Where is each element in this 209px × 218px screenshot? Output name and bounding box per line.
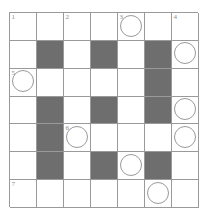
cell-clue-number: 3 (120, 13, 124, 21)
cell-clue-number: 2 (66, 13, 70, 21)
grid-cell[interactable] (91, 180, 118, 208)
grid-cell[interactable] (91, 124, 118, 152)
cell-circle-marker (12, 70, 34, 92)
crossword-puzzle: 1234567 (0, 0, 209, 218)
grid-cell[interactable] (10, 152, 37, 180)
grid-cell-blocked (91, 97, 118, 125)
grid-cell[interactable] (91, 69, 118, 97)
grid-cell[interactable]: 5 (10, 69, 37, 97)
cell-circle-marker (174, 98, 196, 120)
grid-cell[interactable] (118, 124, 145, 152)
grid-cell[interactable] (37, 13, 64, 41)
cell-circle-marker (120, 154, 142, 176)
grid-cell[interactable]: 3 (118, 13, 145, 41)
grid-cell[interactable]: 2 (64, 13, 91, 41)
grid-cell[interactable] (64, 97, 91, 125)
grid-cell-blocked (145, 97, 172, 125)
grid-cell[interactable]: 6 (64, 124, 91, 152)
grid-cell-blocked (37, 97, 64, 125)
grid-cell[interactable] (118, 69, 145, 97)
cell-clue-number: 1 (12, 13, 16, 21)
grid-cell[interactable] (91, 13, 118, 41)
grid-cell[interactable] (64, 41, 91, 69)
grid-cell[interactable] (37, 69, 64, 97)
grid-cell[interactable] (145, 13, 172, 41)
grid-cell[interactable] (64, 152, 91, 180)
grid-cell[interactable] (172, 124, 199, 152)
grid-cell-blocked (91, 41, 118, 69)
grid-cell[interactable]: 7 (10, 180, 37, 208)
grid-cell[interactable] (118, 97, 145, 125)
cell-circle-marker (147, 182, 169, 204)
grid-cell[interactable] (37, 180, 64, 208)
grid-cell[interactable] (64, 69, 91, 97)
grid-cell-blocked (91, 152, 118, 180)
grid-cell[interactable] (172, 152, 199, 180)
grid-cell[interactable]: 4 (172, 13, 199, 41)
grid-cell[interactable] (64, 180, 91, 208)
grid-cell-blocked (145, 41, 172, 69)
grid-cell[interactable] (10, 124, 37, 152)
cell-circle-marker (120, 15, 142, 37)
grid-cell[interactable] (172, 41, 199, 69)
cell-clue-number: 7 (12, 180, 16, 188)
grid-cell[interactable] (118, 41, 145, 69)
grid-cell[interactable] (172, 69, 199, 97)
grid-cell[interactable] (10, 41, 37, 69)
grid-cell[interactable] (172, 97, 199, 125)
grid-cell-blocked (145, 69, 172, 97)
cell-circle-marker (66, 126, 88, 148)
grid-cell[interactable] (118, 180, 145, 208)
grid-cell[interactable] (10, 97, 37, 125)
crossword-grid: 1234567 (9, 12, 198, 207)
grid-cell[interactable]: 1 (10, 13, 37, 41)
grid-cell-blocked (37, 152, 64, 180)
cell-clue-number: 4 (174, 13, 178, 21)
grid-cell-blocked (145, 152, 172, 180)
grid-cell[interactable] (118, 152, 145, 180)
cell-circle-marker (174, 42, 196, 64)
cell-clue-number: 6 (66, 124, 70, 132)
grid-cell[interactable] (172, 180, 199, 208)
grid-cell-blocked (37, 124, 64, 152)
grid-cell[interactable] (145, 124, 172, 152)
grid-cell-blocked (37, 41, 64, 69)
grid-cell[interactable] (145, 180, 172, 208)
cell-circle-marker (174, 126, 196, 148)
cell-clue-number: 5 (12, 69, 16, 77)
